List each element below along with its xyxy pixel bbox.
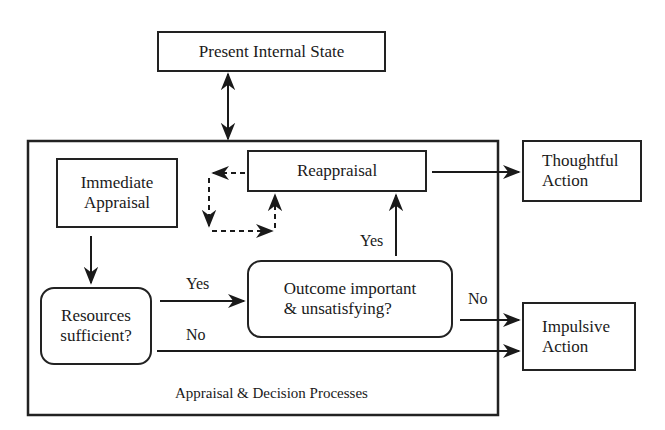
resources-sufficient-label: Resources sufficient? bbox=[60, 306, 131, 346]
container-label: Appraisal & Decision Processes bbox=[175, 385, 368, 402]
impulsive-action-label: Impulsive Action bbox=[542, 317, 610, 357]
resources-no-label: No bbox=[186, 326, 206, 344]
outcome-important-label: Outcome important & unsatisfying? bbox=[284, 279, 417, 319]
reappraisal-box: Reappraisal bbox=[247, 150, 427, 192]
thoughtful-action-box: Thoughtful Action bbox=[522, 140, 642, 202]
outcome-important-box: Outcome important & unsatisfying? bbox=[247, 260, 453, 338]
present-internal-state-label: Present Internal State bbox=[199, 42, 344, 62]
present-internal-state-box: Present Internal State bbox=[157, 31, 386, 72]
impulsive-action-box: Impulsive Action bbox=[522, 302, 636, 371]
resources-yes-label: Yes bbox=[186, 275, 209, 293]
reappraisal-label: Reappraisal bbox=[297, 161, 377, 181]
thoughtful-action-label: Thoughtful Action bbox=[542, 151, 619, 191]
immediate-appraisal-box: Immediate Appraisal bbox=[56, 158, 178, 228]
outcome-yes-label: Yes bbox=[360, 232, 383, 250]
outcome-no-label: No bbox=[468, 290, 488, 308]
resources-sufficient-box: Resources sufficient? bbox=[40, 287, 152, 365]
immediate-appraisal-label: Immediate Appraisal bbox=[81, 173, 154, 213]
